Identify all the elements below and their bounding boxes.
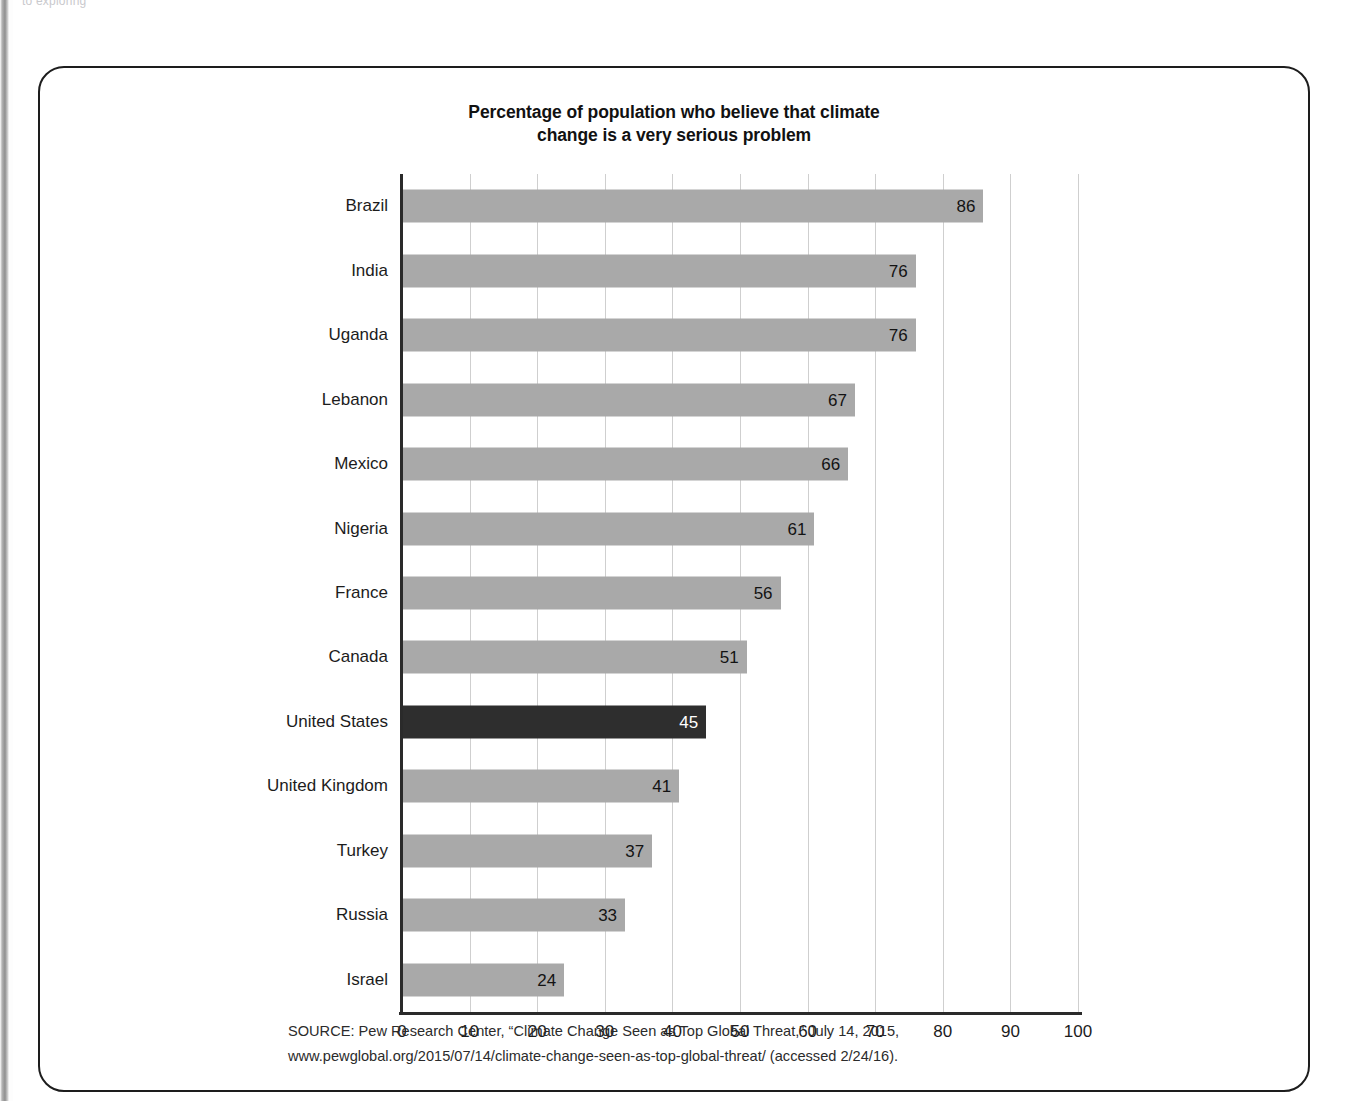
page-edge (9, 0, 13, 1101)
bar[interactable]: 51 (402, 641, 747, 674)
bar[interactable]: 86 (402, 190, 983, 223)
bar-value-label: 45 (679, 713, 698, 730)
chart-title-line-1: Percentage of population who believe tha… (324, 101, 1024, 124)
bar-row: France56 (402, 561, 1078, 625)
bar[interactable]: 61 (402, 512, 814, 545)
plot-area: Brazil86India76Uganda76Lebanon67Mexico66… (402, 174, 1078, 1012)
page-gutter-shadow (0, 0, 9, 1101)
y-axis-line (400, 174, 403, 1012)
bar[interactable]: 56 (402, 576, 781, 609)
bar-row: United States45 (402, 690, 1078, 754)
source-note-line-2: www.pewglobal.org/2015/07/14/climate-cha… (288, 1044, 1188, 1069)
bar-row: Nigeria61 (402, 496, 1078, 560)
bar[interactable]: 76 (402, 319, 916, 352)
x-axis-line (399, 1012, 1082, 1015)
category-label: Nigeria (334, 519, 388, 539)
bar-value-label: 61 (787, 520, 806, 537)
gridline-100 (1078, 174, 1079, 1012)
source-note-line-1: SOURCE: Pew Research Center, “Climate Ch… (288, 1019, 1188, 1044)
bar-row: Mexico66 (402, 432, 1078, 496)
category-label: Israel (346, 970, 388, 990)
bar-value-label: 76 (889, 262, 908, 279)
category-label: United Kingdom (267, 776, 388, 796)
bar-value-label: 86 (956, 198, 975, 215)
bar-value-label: 41 (652, 778, 671, 795)
bar-value-label: 24 (537, 971, 556, 988)
bar-value-label: 37 (625, 842, 644, 859)
category-label: United States (286, 712, 388, 732)
category-label: Brazil (345, 196, 388, 216)
bar-row: India76 (402, 238, 1078, 302)
category-label: Lebanon (322, 390, 388, 410)
bar[interactable]: 76 (402, 254, 916, 287)
bar-row: Canada51 (402, 625, 1078, 689)
bar-row: Turkey37 (402, 819, 1078, 883)
bar[interactable]: 33 (402, 899, 625, 932)
category-label: Turkey (337, 841, 388, 861)
bar-row: Lebanon67 (402, 367, 1078, 431)
category-label: France (335, 583, 388, 603)
bar-value-label: 33 (598, 907, 617, 924)
category-label: Mexico (334, 454, 388, 474)
bar-value-label: 66 (821, 456, 840, 473)
bar[interactable]: 45 (402, 705, 706, 738)
bar[interactable]: 66 (402, 448, 848, 481)
category-label: India (351, 261, 388, 281)
bar-row: Brazil86 (402, 174, 1078, 238)
figure-container: Percentage of population who believe tha… (38, 66, 1310, 1092)
category-label: Russia (336, 905, 388, 925)
bar-value-label: 51 (720, 649, 739, 666)
plot-inner: Brazil86India76Uganda76Lebanon67Mexico66… (402, 174, 1078, 1012)
scan-bleed-text: to exploring (22, 0, 222, 8)
bar[interactable]: 37 (402, 834, 652, 867)
bar-value-label: 67 (828, 391, 847, 408)
chart-title-line-2: change is a very serious problem (324, 124, 1024, 147)
bar-value-label: 56 (754, 584, 773, 601)
bar[interactable]: 41 (402, 770, 679, 803)
bar[interactable]: 24 (402, 963, 564, 996)
category-label: Canada (328, 647, 388, 667)
bar-row: Israel24 (402, 948, 1078, 1012)
source-note: SOURCE: Pew Research Center, “Climate Ch… (288, 1019, 1188, 1069)
category-label: Uganda (328, 325, 388, 345)
bar-row: United Kingdom41 (402, 754, 1078, 818)
chart-title: Percentage of population who believe tha… (324, 101, 1024, 148)
bar-row: Russia33 (402, 883, 1078, 947)
bar[interactable]: 67 (402, 383, 855, 416)
bar-value-label: 76 (889, 327, 908, 344)
bar-row: Uganda76 (402, 303, 1078, 367)
